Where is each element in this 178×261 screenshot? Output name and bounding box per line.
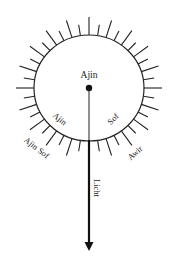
tick-mark [133, 119, 148, 130]
tick-mark [79, 140, 81, 151]
outer-left-label: Ajin Sof [22, 135, 51, 161]
tick-mark [141, 104, 158, 110]
tick-mark [30, 112, 40, 117]
tick-mark [114, 31, 119, 41]
tick-mark [20, 66, 37, 72]
tick-mark [46, 31, 57, 46]
tick-mark [133, 46, 148, 57]
tick-mark [42, 43, 50, 51]
tick-mark [98, 25, 100, 36]
tick-mark [24, 96, 35, 98]
tick-mark [106, 20, 112, 37]
tick-mark [30, 59, 40, 64]
tick-mark [128, 125, 136, 133]
kabbalah-light-diagram: Ajin Ajin Sof Ajin Sof Awir Licht [0, 0, 178, 261]
tick-mark [30, 119, 45, 130]
outer-right-label: Awir [125, 143, 144, 162]
tick-mark [30, 46, 45, 57]
tick-mark [24, 78, 35, 80]
tick-mark [143, 96, 154, 98]
tick-mark [121, 31, 132, 46]
tick-mark [128, 43, 136, 51]
tick-mark [98, 140, 100, 151]
tick-mark [46, 131, 57, 146]
tick-mark [143, 78, 154, 80]
tick-mark [20, 104, 37, 110]
tick-mark [114, 135, 119, 145]
center-label: Ajin [81, 70, 98, 80]
tick-mark [66, 138, 72, 155]
tick-mark [138, 112, 148, 117]
tick-mark [106, 138, 112, 155]
arrowhead-icon [85, 242, 94, 251]
tick-mark [79, 25, 81, 36]
tick-mark [138, 59, 148, 64]
tick-mark [42, 125, 50, 133]
tick-mark [59, 135, 64, 145]
arrow-label: Licht [92, 179, 102, 198]
tick-mark [121, 131, 132, 146]
tick-mark [66, 20, 72, 37]
tick-mark [59, 31, 64, 41]
tick-mark [141, 66, 158, 72]
